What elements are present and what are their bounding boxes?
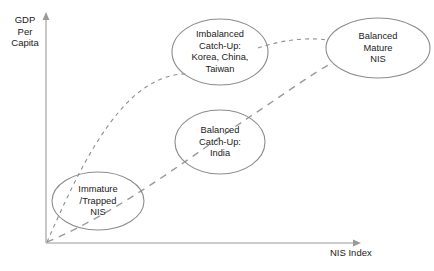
diagram-canvas bbox=[0, 0, 434, 271]
x-axis-arrowhead bbox=[353, 240, 361, 247]
y-axis-label: GDP Per Capita bbox=[6, 14, 44, 49]
nis-index-gdp-diagram: GDP Per Capita NIS Index Immature /Trapp… bbox=[0, 0, 434, 271]
trajectory-imbalanced-path bbox=[47, 74, 186, 242]
node-balanced-mature-nis[interactable] bbox=[326, 18, 430, 78]
x-axis-label: NIS Index bbox=[330, 247, 400, 259]
x-axis bbox=[46, 240, 361, 247]
node-immature-trapped-nis[interactable] bbox=[52, 172, 144, 230]
trajectory-imbalanced-to-mature-link bbox=[258, 39, 327, 48]
node-balanced-catch-up-india[interactable] bbox=[175, 110, 265, 174]
trajectory-balanced-path bbox=[47, 64, 330, 242]
node-imbalanced-catch-up[interactable] bbox=[172, 19, 268, 85]
